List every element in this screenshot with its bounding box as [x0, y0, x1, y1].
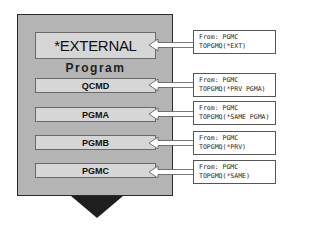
callout-target: TOPGMQ(*SAME)	[199, 172, 275, 181]
callout-pgmb: From: PGMC TOPGMQ(*PRV)	[193, 131, 276, 155]
callout-from: From: PGMC	[199, 104, 275, 113]
stack-entry-label: PGMA	[82, 110, 109, 120]
stack-entry-qcmd: QCMD	[35, 78, 156, 93]
left-arrow-icon	[149, 166, 194, 178]
stack-entry-label: PGMC	[82, 166, 109, 176]
stack-entry-label: PGMB	[82, 138, 109, 148]
external-entry-label: *EXTERNAL	[54, 37, 136, 54]
callout-pgmc: From: PGMC TOPGMQ(*SAME)	[193, 160, 276, 184]
callout-pgma: From: PGMC TOPGMQ(*SAME PGMA)	[193, 101, 276, 125]
left-arrow-icon	[149, 137, 194, 149]
stack-entry-pgmc: PGMC	[35, 163, 156, 178]
stack-entry-pgmb: PGMB	[35, 135, 156, 150]
callout-from: From: PGMC	[199, 134, 275, 143]
left-arrow-icon	[149, 108, 194, 120]
program-section-label: Program	[35, 61, 156, 75]
stack-entry-label: QCMD	[82, 81, 110, 91]
callout-external: From: PGMC TOPGMQ(*EXT)	[193, 30, 276, 54]
callout-target: TOPGMQ(*PRV)	[199, 143, 275, 152]
callout-target: TOPGMQ(*PRV PGMA)	[199, 85, 275, 94]
external-entry: *EXTERNAL	[35, 32, 156, 59]
left-arrow-icon	[149, 39, 194, 51]
left-arrow-icon	[149, 79, 194, 91]
down-triangle-icon	[71, 196, 123, 218]
callout-from: From: PGMC	[199, 76, 275, 85]
callout-from: From: PGMC	[199, 33, 275, 42]
callout-target: TOPGMQ(*SAME PGMA)	[199, 113, 275, 122]
stack-entry-pgma: PGMA	[35, 107, 156, 122]
callout-qcmd: From: PGMC TOPGMQ(*PRV PGMA)	[193, 73, 276, 97]
callout-target: TOPGMQ(*EXT)	[199, 42, 275, 51]
callout-from: From: PGMC	[199, 163, 275, 172]
